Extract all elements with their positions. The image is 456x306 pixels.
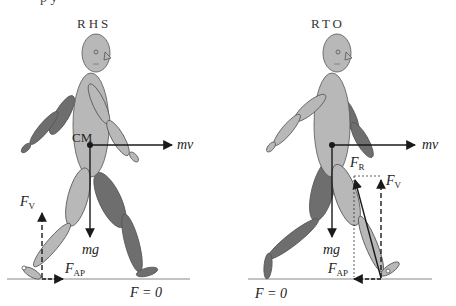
fr-arrow bbox=[355, 180, 381, 278]
panel-title-rto: RTO bbox=[311, 17, 345, 30]
mg-label: mg bbox=[82, 243, 99, 257]
fr-label: FR bbox=[350, 156, 365, 172]
head bbox=[82, 34, 111, 72]
f-zero-label: F = 0 bbox=[255, 287, 287, 301]
gait-diagram: p y RHS CM mv mg FV FAP F = 0 RTO mv mg … bbox=[0, 0, 456, 306]
fv-label: FV bbox=[20, 195, 35, 211]
panel-title-rhs: RHS bbox=[77, 17, 111, 30]
cm-label: CM bbox=[72, 131, 92, 144]
back-arm bbox=[20, 92, 79, 154]
fv-label: FV bbox=[386, 174, 401, 190]
right-leg-dark bbox=[87, 168, 158, 279]
cut-off-caption: p y bbox=[40, 0, 58, 5]
mg-label: mg bbox=[323, 243, 340, 257]
mv-label: mv bbox=[177, 138, 193, 152]
fap-label: FAP bbox=[65, 262, 85, 278]
head bbox=[323, 34, 352, 72]
fap-label: FAP bbox=[328, 262, 348, 278]
f-zero-label: F = 0 bbox=[130, 286, 162, 300]
mv-label: mv bbox=[422, 138, 438, 152]
